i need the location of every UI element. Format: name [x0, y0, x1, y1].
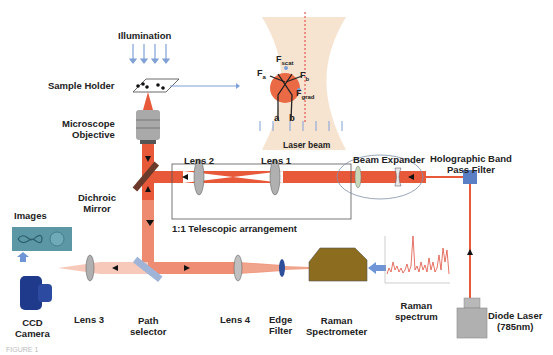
- label-holographic-filter: Holographic Band Pass Filter: [430, 153, 512, 175]
- label-edge-filter: Edge Filter: [269, 314, 292, 336]
- label-lens2: Lens 2: [184, 155, 214, 166]
- illumination-arrows: [130, 44, 169, 63]
- label-dichroic-mirror: Dichroic Mirror: [78, 192, 116, 214]
- label-raman-spectrum: Raman spectrum: [395, 300, 438, 322]
- label-laser-beam: Laser beam: [283, 140, 330, 151]
- label-path-selector: Path selector: [130, 315, 166, 337]
- label-raman-spectrometer: Raman Spectrometer: [306, 315, 367, 337]
- microscope-objective: [136, 110, 160, 140]
- label-ray-b: b: [289, 112, 295, 123]
- raman-spectrum-chart: [385, 236, 450, 283]
- label-beam-expander: Beam Expander: [353, 154, 425, 165]
- label-lens4: Lens 4: [220, 314, 250, 325]
- label-f-b: Fb: [300, 70, 309, 85]
- label-microscope-objective: Microscope Objective: [62, 118, 115, 140]
- label-f-grad: Fgrad: [296, 88, 315, 103]
- label-telescopic: 1:1 Telescopic arrangement: [172, 223, 297, 234]
- label-f-scat: Fscat: [276, 54, 294, 69]
- raman-spectrometer: [309, 248, 367, 281]
- diode-laser: [457, 308, 487, 338]
- label-lens3: Lens 3: [74, 314, 104, 325]
- label-ccd-camera: CCD Camera: [15, 317, 50, 339]
- label-images: Images: [14, 210, 47, 221]
- label-f-a: Fa: [257, 68, 266, 83]
- label-ray-a: a: [274, 112, 279, 123]
- label-lens1: Lens 1: [261, 155, 291, 166]
- label-diode-laser: Diode Laser (785nm): [488, 310, 542, 332]
- figure-caption: FIGURE 1: [6, 344, 38, 355]
- label-sample-holder: Sample Holder: [48, 80, 115, 91]
- label-illumination: Illumination: [118, 30, 171, 41]
